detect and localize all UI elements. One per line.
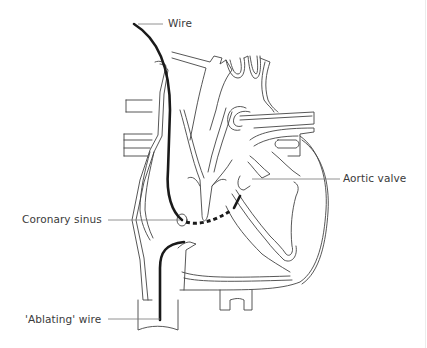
label-ablating-wire: 'Ablating' wire — [25, 313, 101, 325]
right-border-line — [425, 0, 426, 348]
coronary-sinus-wire-path — [186, 210, 232, 223]
aortic-valve-outline — [238, 152, 300, 190]
ablating-wire — [160, 242, 184, 320]
aorta-outline — [172, 52, 278, 140]
label-aortic-valve: Aortic valve — [343, 172, 406, 184]
heart-diagram: Wire Aortic valve Coronary sinus 'Ablati… — [0, 0, 427, 348]
label-coronary-sinus: Coronary sinus — [22, 213, 102, 225]
label-wire: Wire — [168, 17, 192, 29]
pulmonary-artery-outline — [240, 112, 314, 156]
septum-outline — [180, 108, 232, 221]
